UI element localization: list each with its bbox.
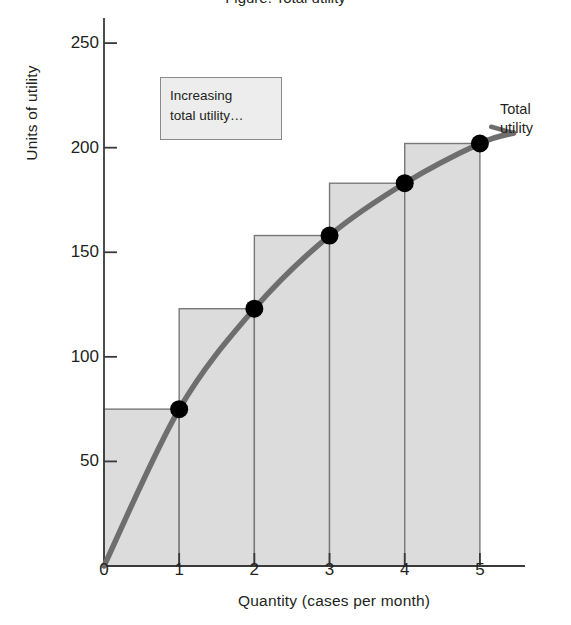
- chart-plot-area: [0, 0, 571, 625]
- x-tick-label: 5: [465, 560, 495, 580]
- data-point: [471, 134, 489, 152]
- callout-line-2: total utility…: [170, 106, 281, 126]
- data-point: [321, 227, 339, 245]
- step-bar: [179, 309, 254, 566]
- x-tick-label: 4: [390, 560, 420, 580]
- callout-line-1: Increasing: [170, 86, 281, 106]
- step-bar-group: [104, 143, 480, 566]
- y-tick-label: 150: [53, 242, 99, 262]
- step-bar: [254, 236, 329, 566]
- increasing-utility-callout: Increasing total utility…: [160, 77, 282, 140]
- y-tick-label: 100: [53, 347, 99, 367]
- curve-label-line-1: Total: [500, 100, 533, 119]
- x-tick-label: 2: [239, 560, 269, 580]
- step-bar: [405, 143, 480, 566]
- y-tick-label: 200: [53, 138, 99, 158]
- x-tick-label: 3: [315, 560, 345, 580]
- y-tick-marks: [104, 43, 117, 461]
- x-tick-label: 1: [164, 560, 194, 580]
- data-point: [396, 174, 414, 192]
- data-point: [245, 300, 263, 318]
- curve-label-line-2: utility: [500, 119, 533, 138]
- y-tick-label: 250: [53, 33, 99, 53]
- x-tick-label: 0: [89, 560, 119, 580]
- step-bar: [330, 183, 405, 566]
- total-utility-label: Total utility: [500, 100, 533, 138]
- data-point: [170, 400, 188, 418]
- total-utility-chart: Figure: Total utility Units of utility Q…: [0, 0, 571, 625]
- y-tick-label: 50: [53, 451, 99, 471]
